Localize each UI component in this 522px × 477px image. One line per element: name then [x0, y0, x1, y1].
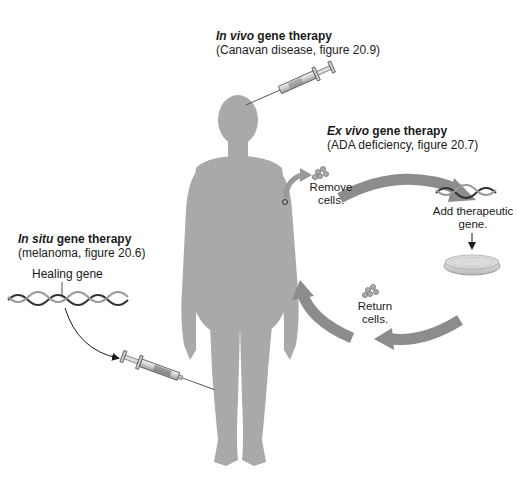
- ex-vivo-title-italic: Ex vivo: [327, 124, 369, 138]
- in-vivo-syringe-icon: [246, 60, 336, 105]
- remove-line-1: Remove: [306, 181, 356, 194]
- in-situ-label: In situ gene therapy (melanoma, figure 2…: [18, 232, 145, 260]
- healing-gene-label: Healing gene: [32, 267, 103, 281]
- in-situ-arrow: [65, 308, 118, 358]
- add-line-1: Add therapeutic: [420, 205, 522, 218]
- in-situ-subtitle: (melanoma, figure 20.6): [18, 246, 145, 260]
- return-line-2: cells.: [350, 313, 400, 326]
- human-body-silhouette: [181, 95, 298, 466]
- in-situ-syringe-icon: [120, 349, 217, 396]
- in-vivo-title-italic: In vivo: [216, 29, 254, 43]
- healing-gene-dna-icon: [8, 292, 128, 305]
- ex-vivo-subtitle: (ADA deficiency, figure 20.7): [327, 138, 478, 152]
- cell-cluster-icon: [362, 284, 378, 297]
- add-line-2: gene.: [420, 218, 522, 231]
- return-line-1: Return: [350, 300, 400, 313]
- arrow-head-to-return: [374, 328, 394, 350]
- in-vivo-title: gene therapy: [254, 29, 332, 43]
- in-vivo-label: In vivo gene therapy (Canavan disease, f…: [216, 29, 380, 57]
- in-situ-title: gene therapy: [53, 232, 131, 246]
- petri-dish-icon: [444, 255, 500, 275]
- ex-vivo-title: gene therapy: [369, 124, 447, 138]
- return-cells-label: Return cells.: [350, 300, 400, 326]
- ex-vivo-label: Ex vivo gene therapy (ADA deficiency, fi…: [327, 124, 478, 152]
- remove-cells-label: Remove cells.: [306, 181, 356, 207]
- cell-cluster-icon: [312, 166, 328, 179]
- add-gene-label: Add therapeutic gene.: [420, 205, 522, 231]
- remove-line-2: cells.: [306, 194, 356, 207]
- in-situ-title-italic: In situ: [18, 232, 53, 246]
- in-vivo-subtitle: (Canavan disease, figure 20.9): [216, 43, 380, 57]
